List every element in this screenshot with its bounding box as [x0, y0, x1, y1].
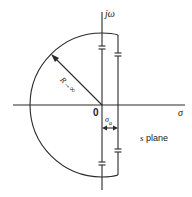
- offset-arrowhead-left: [102, 126, 107, 131]
- break-mark-imag-top: [99, 46, 106, 49]
- contour-bottom-segment: [102, 175, 118, 177]
- s-plane-diagram: [0, 0, 192, 197]
- offset-arrowhead-right: [113, 126, 118, 131]
- s-plane-label-s: s: [140, 133, 144, 143]
- contour-top-segment: [102, 33, 118, 35]
- offset-label-sub: a: [109, 120, 112, 126]
- break-mark-right-top: [115, 53, 122, 56]
- real-axis-label: σ: [178, 108, 183, 118]
- break-mark-imag-bottom: [99, 162, 106, 165]
- s-plane-label-word: plane: [146, 133, 168, 143]
- s-plane-label: s plane: [140, 134, 168, 143]
- imaginary-axis-label: jω: [105, 9, 115, 19]
- origin-label: 0: [93, 108, 99, 118]
- offset-label: σa: [105, 116, 112, 126]
- break-mark-right-bottom: [115, 149, 122, 152]
